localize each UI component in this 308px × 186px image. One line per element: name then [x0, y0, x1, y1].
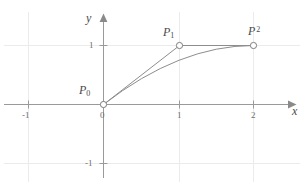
- y-axis-label: y: [86, 12, 91, 24]
- point-label-p2-sub: 2: [256, 25, 260, 34]
- bezier-curve: [104, 46, 254, 105]
- tick-label-y-1: 1: [89, 41, 94, 50]
- marker-p0[interactable]: [100, 101, 106, 107]
- point-label-p1-sub: 1: [170, 31, 174, 40]
- y-axis-arrowhead: [100, 14, 108, 23]
- marker-p1[interactable]: [176, 42, 182, 48]
- tick-label-x-2: 2: [251, 111, 256, 120]
- bezier-curve-figure: y x -1 0 1 2 1 -1 P0 P1 P2: [0, 0, 308, 186]
- point-label-p0-sub: 0: [86, 89, 90, 98]
- x-axis-label: x: [292, 105, 297, 117]
- axes: [4, 14, 297, 179]
- control-polygon: [104, 46, 254, 105]
- gridlines: [4, 12, 300, 182]
- point-label-p2-base: P: [248, 24, 255, 38]
- tick-label-x-0: 0: [100, 111, 105, 120]
- bezier-path: [104, 46, 254, 105]
- tick-label-y-neg1: -1: [85, 159, 93, 168]
- point-label-p1: P1: [163, 26, 174, 38]
- tick-label-x-1: 1: [177, 111, 182, 120]
- marker-p2[interactable]: [250, 42, 256, 48]
- plot-canvas: [0, 0, 308, 186]
- point-label-p2: P2: [248, 25, 259, 37]
- point-label-p0: P0: [79, 84, 90, 96]
- control-point-markers: [100, 42, 256, 107]
- tick-label-x-neg1: -1: [22, 111, 30, 120]
